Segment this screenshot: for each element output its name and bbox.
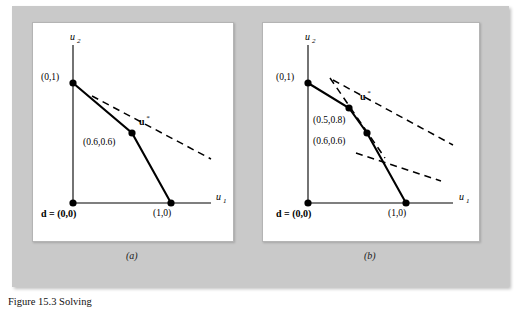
point-1-0 (167, 199, 174, 206)
label-point-06-06: (0.6,0.6) (83, 137, 115, 148)
x-axis-label: u (459, 191, 464, 202)
point-0-1 (69, 79, 76, 86)
panel-a-caption: (a) (126, 250, 138, 261)
x-axis-label-sub: 1 (466, 197, 470, 205)
x-axis-label: u (216, 191, 221, 202)
label-disagreement-point: d = (0,0) (41, 208, 76, 220)
label-disagreement-point: d = (0,0) (276, 208, 311, 220)
point-06-06 (128, 129, 135, 136)
label-optimum-base: u (360, 91, 366, 102)
label-point-0-1: (0,1) (276, 72, 294, 83)
label-optimum-superscript: * (146, 114, 150, 122)
label-point-06-06: (0.6,0.6) (313, 136, 345, 147)
label-point-05-08: (0.5,0.8) (313, 115, 345, 126)
disagreement-point (69, 199, 76, 206)
panel-b-drawing: u 2 u 1 (0,1) (1,0) (0.5,0.8) (0.6,0.6) … (263, 23, 479, 241)
x-axis-label-sub: 1 (223, 197, 227, 205)
label-point-1-0: (1,0) (153, 208, 171, 219)
supporting-line (92, 96, 211, 159)
y-axis-label: u (70, 31, 75, 42)
figure-caption: Figure 15.3 Solving (8, 296, 92, 307)
panel-b-caption: (b) (364, 250, 376, 261)
panel-b: u 2 u 1 (0,1) (1,0) (0.5,0.8) (0.6,0.6) … (262, 22, 480, 242)
point-1-0 (402, 199, 409, 206)
supporting-line-3 (356, 153, 441, 181)
disagreement-point (304, 199, 311, 206)
panel-a: u 2 u 1 (0,1) (1,0) (0.6,0.6) d = (0,0) … (32, 22, 234, 242)
label-point-1-0: (1,0) (388, 208, 406, 219)
point-06-06 (363, 129, 370, 136)
y-axis-label-sub: 2 (77, 37, 81, 45)
point-05-08 (345, 104, 352, 111)
label-point-0-1: (0,1) (41, 72, 59, 83)
label-optimum-superscript: * (367, 89, 371, 97)
y-axis-label-sub: 2 (312, 37, 316, 45)
y-axis-label: u (305, 31, 310, 42)
figure-root: u 2 u 1 (0,1) (1,0) (0.6,0.6) d = (0,0) … (0, 0, 527, 318)
point-0-1 (304, 79, 311, 86)
panel-a-drawing: u 2 u 1 (0,1) (1,0) (0.6,0.6) d = (0,0) … (33, 23, 233, 241)
label-optimum-base: u (139, 116, 145, 127)
